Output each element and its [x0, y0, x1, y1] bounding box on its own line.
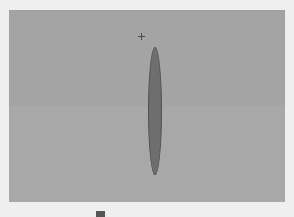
crosshair-icon — [138, 33, 145, 40]
panel-lower-band — [9, 106, 285, 202]
figure-panel — [9, 10, 285, 202]
vertical-ellipse — [148, 47, 162, 175]
caption-marker — [96, 211, 105, 217]
figure-caption — [96, 211, 206, 217]
